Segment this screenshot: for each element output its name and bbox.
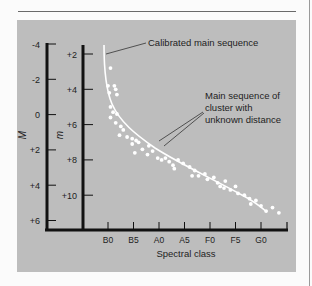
cluster-star-point [176,158,180,162]
m-tick-label: +8 [67,155,77,165]
cluster-star-point [212,176,216,180]
cluster-star-point [121,128,125,132]
cluster-star-point [164,156,168,160]
cluster-star-point [203,172,207,176]
cluster-star-point [248,197,252,201]
cluster-star-point [114,87,118,91]
cluster-star-point [218,185,222,189]
cluster-star-point [160,158,164,162]
cluster-star-point [277,211,281,215]
cluster-star-point [216,181,220,185]
cluster-star-point [133,151,137,155]
cluster-star-point [107,91,111,95]
m-tick-label: +4 [67,85,77,95]
M-tick-label: 0 [35,110,40,120]
m-tick-label: +2 [67,50,77,60]
cluster-star-point [118,133,122,137]
x-tick-label: A0 [154,235,165,245]
cluster-star-point [151,149,155,153]
M-axis: -4-20+2+4+6 M [17,40,56,232]
cluster-star-point [190,174,194,178]
callout-cluster-line3: unknown distance [205,114,281,125]
cluster-star-point [141,147,145,151]
m-tick-label: +6 [67,120,77,130]
cluster-star-point [125,135,129,139]
cluster-star-point [114,121,118,125]
M-tick-label: +4 [30,181,40,191]
cluster-star-point [156,156,160,160]
cluster-star-point [234,185,238,189]
x-tick-label: G0 [255,235,267,245]
cluster-star-point [206,177,210,181]
M-tick-label: -4 [32,40,40,50]
m-axis: +2+4+6+8+10 m [54,45,93,231]
cluster-star-point [181,162,185,166]
cluster-star-point [172,167,176,171]
M-tick-label: +2 [30,145,40,155]
x-axis-label: Spectral class [156,248,215,259]
callout-cluster-line1: Main sequence of [205,90,280,101]
cluster-star-point [271,206,275,210]
cluster-star-point [109,66,113,70]
cluster-star-point [197,174,201,178]
cluster-star-point [119,125,123,129]
cluster-star-point [222,186,226,190]
cluster-star-point [259,204,263,208]
x-tick-label: F0 [205,235,215,245]
cluster-star-point [106,84,110,88]
M-tick-label: -2 [32,75,40,85]
cluster-star-point [188,165,192,169]
cluster-star-point [236,192,240,196]
hr-diagram: -4-20+2+4+6 M +2+4+6+8+10 m B0B5A0A5F0F5… [0,0,312,286]
x-tick-label: A5 [179,235,190,245]
cluster-star-point [171,163,175,167]
m-axis-label: m [54,131,65,139]
M-axis-label: M [17,130,28,139]
cluster-star-point [249,202,253,206]
cluster-star-point [130,137,134,141]
x-axis: B0B5A0A5F0F5G0 Spectral class [45,222,288,259]
cluster-star-point [115,93,119,97]
x-tick-label: B5 [128,235,139,245]
callout-cluster-line2: cluster with [205,102,253,113]
cluster-star-point [193,169,197,173]
cluster-star-point [243,193,247,197]
cluster-points [106,66,281,215]
cluster-star-point [109,116,113,120]
cluster-star-point [167,160,171,164]
cluster-star-point [254,199,258,203]
cluster-star-point [137,140,141,144]
cluster-star-point [146,153,150,157]
cluster-star-point [130,142,134,146]
cluster-star-point [147,144,151,148]
M-tick-label: +6 [30,216,40,226]
callout-calibrated: Calibrated main sequence [106,37,258,54]
callout-calibrated-text: Calibrated main sequence [148,37,258,48]
cluster-star-point [113,84,117,88]
m-tick-label: +10 [62,191,77,201]
cluster-star-point [229,188,233,192]
x-tick-label: B0 [103,235,114,245]
cluster-star-point [109,105,113,109]
cluster-star-point [223,179,227,183]
x-tick-label: F5 [231,235,241,245]
cluster-star-point [264,209,268,213]
cluster-star-point [111,110,115,114]
callout-cluster: Main sequence of cluster with unknown di… [159,90,281,146]
cluster-star-point [115,112,119,116]
